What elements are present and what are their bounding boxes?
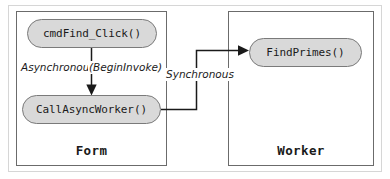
- container-worker: Worker: [228, 11, 374, 166]
- edge-label-begininvoke: (BeginInvoke): [88, 61, 163, 74]
- node-cmdfind-click[interactable]: cmdFind_Click(): [27, 19, 157, 48]
- diagram-canvas: Form Worker cmdFind_Click() CallAsyncWor…: [0, 0, 390, 179]
- node-callasyncworker[interactable]: CallAsyncWorker(): [22, 95, 161, 124]
- node-findprimes[interactable]: FindPrimes(): [249, 38, 362, 67]
- edge-label-asynchronous: Asynchronous: [20, 61, 96, 74]
- edge-label-synchronous: Synchronous: [165, 68, 235, 81]
- container-worker-label: Worker: [229, 143, 373, 158]
- container-form-label: Form: [17, 143, 166, 158]
